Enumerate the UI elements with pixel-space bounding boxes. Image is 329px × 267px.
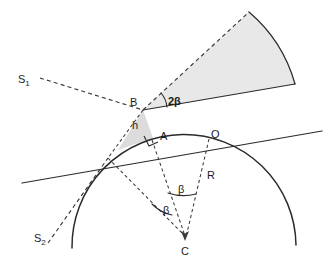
- label-angle-two-beta: 2β: [168, 96, 181, 107]
- label-s1: S1: [18, 74, 30, 88]
- label-point-c: C: [181, 246, 189, 257]
- ray-s1-dashed: [40, 78, 143, 110]
- arrowhead-at-c: [181, 231, 189, 241]
- shaded-wedge-region: [143, 12, 295, 110]
- label-angle-beta-upper: β: [178, 184, 184, 195]
- label-point-b: B: [130, 97, 137, 108]
- tangent-line-lower: [22, 131, 322, 183]
- label-angle-beta-lower: β: [163, 205, 169, 216]
- ray-s2-dashed: [48, 158, 108, 243]
- geometry-diagram: S1 S2 B 2β h A O R β β C: [0, 0, 329, 267]
- ray-s2-to-center-dashed: [108, 158, 183, 234]
- label-height-h: h: [132, 120, 138, 131]
- label-point-a: A: [160, 131, 167, 142]
- label-radius-r: R: [207, 170, 215, 181]
- label-point-o: O: [211, 129, 220, 140]
- label-s2: S2: [34, 233, 46, 247]
